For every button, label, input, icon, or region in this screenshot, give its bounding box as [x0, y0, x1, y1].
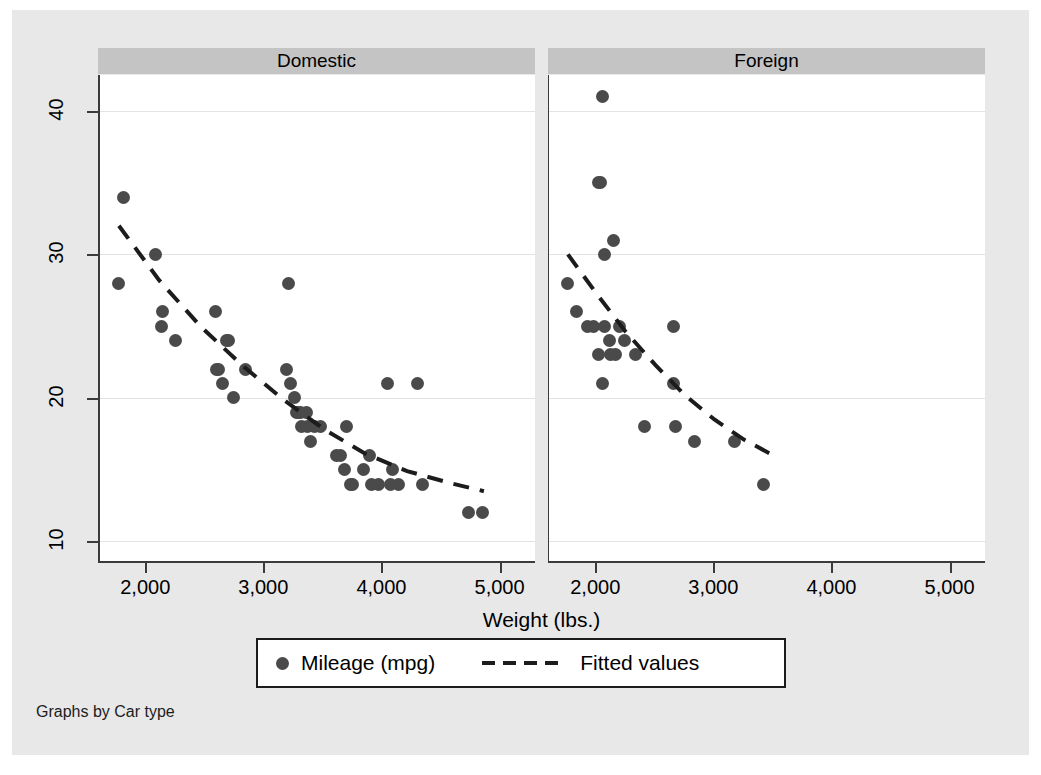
x-axis-tick-mark	[381, 563, 383, 573]
footer-note: Graphs by Car type	[36, 703, 175, 721]
x-axis-tick-label: 2,000	[545, 576, 645, 599]
legend-entry-mileage: Mileage (mpg)	[276, 651, 435, 675]
x-axis-tick-mark	[595, 563, 597, 573]
legend-label-mileage: Mileage (mpg)	[301, 651, 435, 675]
x-axis-tick-mark	[713, 563, 715, 573]
x-axis-tick-mark	[145, 563, 147, 573]
panel-header-domestic: Domestic	[98, 48, 535, 74]
x-axis-tick-label: 5,000	[450, 576, 550, 599]
x-axis-tick-mark	[263, 563, 265, 573]
legend-dashed-line-icon	[481, 660, 567, 666]
x-axis-tick-label: 2,000	[95, 576, 195, 599]
x-axis-tick-mark	[831, 563, 833, 573]
chart-screenshot: 10203040 Domestic Foreign 2,0003,0004,00…	[0, 0, 1041, 775]
y-axis-tick-label: 20	[45, 372, 68, 420]
plot-area-domestic	[98, 75, 535, 563]
y-axis-tick-mark	[87, 254, 98, 256]
y-axis-tick-mark	[87, 541, 98, 543]
fitted-values-line	[549, 75, 985, 563]
legend: Mileage (mpg) Fitted values	[256, 638, 786, 688]
legend-entry-fitted: Fitted values	[481, 651, 699, 675]
x-axis-tick-mark	[500, 563, 502, 573]
x-axis-title: Weight (lbs.)	[98, 608, 985, 632]
x-axis-tick-mark	[950, 563, 952, 573]
x-axis-tick-label: 5,000	[900, 576, 1000, 599]
x-axis-tick-label: 4,000	[331, 576, 431, 599]
y-axis-tick-mark	[87, 398, 98, 400]
y-axis-tick-mark	[87, 111, 98, 113]
plot-area-foreign	[548, 75, 985, 563]
y-axis-tick-label: 10	[45, 516, 68, 564]
panel-title-domestic: Domestic	[277, 50, 356, 72]
x-axis-tick-label: 3,000	[213, 576, 313, 599]
y-axis-tick-label: 30	[45, 229, 68, 277]
legend-marker-icon	[276, 657, 289, 670]
x-axis-tick-label: 4,000	[781, 576, 881, 599]
panel-header-foreign: Foreign	[548, 48, 985, 74]
legend-label-fitted: Fitted values	[580, 651, 699, 675]
panel-title-foreign: Foreign	[734, 50, 798, 72]
fitted-values-line	[100, 75, 535, 563]
x-axis-tick-label: 3,000	[663, 576, 763, 599]
y-axis-tick-label: 40	[45, 85, 68, 133]
